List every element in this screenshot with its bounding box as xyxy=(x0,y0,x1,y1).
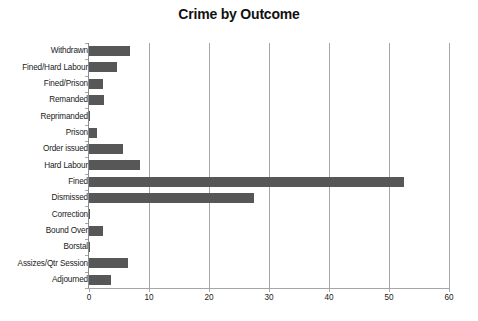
y-axis-category-label: Fined/Hard Labour xyxy=(2,63,88,72)
bar-row xyxy=(89,157,449,173)
bar-row xyxy=(89,59,449,75)
y-axis-category-label: Fined xyxy=(2,177,88,186)
y-axis-category-label: Correction xyxy=(2,210,88,219)
bar-row xyxy=(89,272,449,288)
plot-area xyxy=(89,43,449,288)
y-axis-category-label: Borstal xyxy=(2,242,88,251)
x-axis-tick-label: 0 xyxy=(69,293,109,302)
x-axis-tick-label: 60 xyxy=(429,293,469,302)
x-axis-tick-label: 10 xyxy=(129,293,169,302)
x-axis-tick xyxy=(329,288,330,292)
x-axis-tick xyxy=(269,288,270,292)
bar-row xyxy=(89,92,449,108)
y-axis-category-label: Fined/Prison xyxy=(2,79,88,88)
x-axis-tick xyxy=(149,288,150,292)
bar[interactable] xyxy=(89,144,123,154)
y-axis-category-label: Withdrawn xyxy=(2,46,88,55)
x-axis-tick-label: 30 xyxy=(249,293,289,302)
bar-row xyxy=(89,108,449,124)
bar[interactable] xyxy=(89,128,97,138)
bar-row xyxy=(89,76,449,92)
chart-title: Crime by Outcome xyxy=(0,6,478,22)
y-axis-category-label: Assizes/Qtr Session xyxy=(2,259,88,268)
bar[interactable] xyxy=(89,79,103,89)
bar-row xyxy=(89,125,449,141)
bar[interactable] xyxy=(89,111,90,121)
y-axis-category-label: Remanded xyxy=(2,95,88,104)
y-axis-category-label: Prison xyxy=(2,128,88,137)
y-axis-category-label: Reprimanded xyxy=(2,112,88,121)
gridline xyxy=(449,43,450,288)
bar[interactable] xyxy=(89,209,90,219)
y-axis-category-label: Dismissed xyxy=(2,193,88,202)
bar-row xyxy=(89,223,449,239)
x-axis-tick-label: 20 xyxy=(189,293,229,302)
bar[interactable] xyxy=(89,242,90,252)
y-axis-labels: WithdrawnFined/Hard LabourFined/PrisonRe… xyxy=(0,43,88,288)
bar[interactable] xyxy=(89,160,140,170)
bar[interactable] xyxy=(89,62,117,72)
y-axis-tick xyxy=(85,288,88,289)
x-axis-tick xyxy=(449,288,450,292)
y-axis-category-label: Order issued xyxy=(2,144,88,153)
x-axis-tick xyxy=(209,288,210,292)
bar[interactable] xyxy=(89,46,130,56)
bar[interactable] xyxy=(89,275,111,285)
bar-row xyxy=(89,174,449,190)
bar[interactable] xyxy=(89,193,254,203)
chart-container: Crime by Outcome WithdrawnFined/Hard Lab… xyxy=(0,0,478,321)
x-axis-tick-labels: 0102030405060 xyxy=(0,293,478,313)
bar[interactable] xyxy=(89,95,104,105)
bar[interactable] xyxy=(89,177,404,187)
bar[interactable] xyxy=(89,226,103,236)
x-axis-tick-label: 40 xyxy=(309,293,349,302)
bar-row xyxy=(89,190,449,206)
bar-row xyxy=(89,239,449,255)
x-axis-tick xyxy=(389,288,390,292)
x-axis-tick xyxy=(89,288,90,292)
y-axis-category-label: Adjourned xyxy=(2,275,88,284)
y-axis-category-label: Bound Over xyxy=(2,226,88,235)
bar-row xyxy=(89,206,449,222)
bar-row xyxy=(89,43,449,59)
bar[interactable] xyxy=(89,258,128,268)
bar-row xyxy=(89,141,449,157)
bar-row xyxy=(89,255,449,271)
y-axis-category-label: Hard Labour xyxy=(2,161,88,170)
x-axis-tick-label: 50 xyxy=(369,293,409,302)
